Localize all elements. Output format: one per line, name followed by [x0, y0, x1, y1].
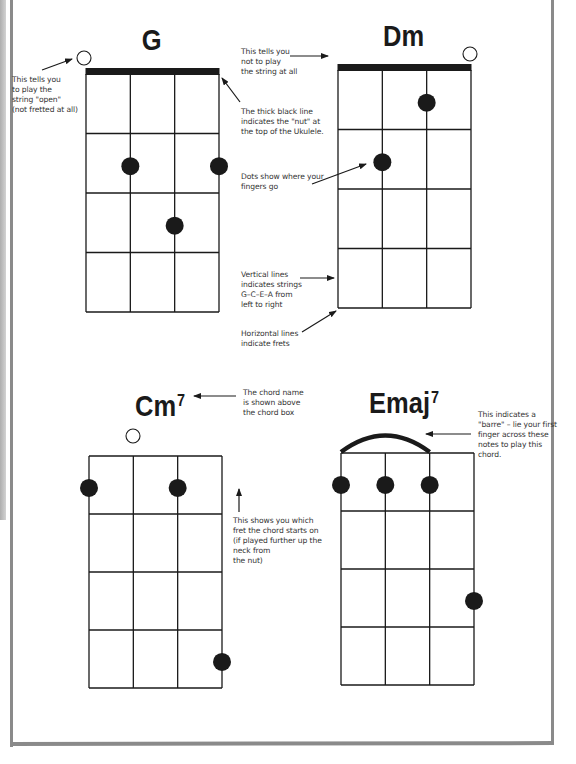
- note-start-fret: This shows you which fret the chord star…: [233, 516, 322, 566]
- chord-title-emaj7: Emaj7: [356, 383, 451, 418]
- chord-title-g: G: [127, 20, 178, 55]
- finger-dot: [373, 153, 391, 171]
- note-barre: This indicates a "barre" – lie your firs…: [478, 410, 557, 460]
- ukulele-chord-guide-page: G Dm Cm7 Emaj7 This tells you to play th…: [0, 0, 576, 764]
- chord-box-dm: [338, 47, 478, 308]
- finger-dot: [421, 476, 439, 494]
- chord-box-emaj7: [332, 436, 483, 686]
- open-string-marker: [77, 51, 91, 65]
- finger-dot: [376, 476, 394, 494]
- finger-dot: [169, 479, 187, 497]
- finger-dot: [213, 653, 231, 671]
- nut-bar: [86, 68, 220, 75]
- finger-dot: [332, 476, 350, 494]
- finger-dot: [465, 592, 483, 610]
- arrow-horizontal-lines-icon: [302, 311, 336, 332]
- note-chord-name: The chord name is shown above the chord …: [243, 388, 304, 418]
- note-dots: Dots show where your fingers go: [241, 172, 324, 192]
- note-vertical-lines: Vertical lines indicates strings G–C–E–A…: [241, 270, 302, 310]
- chord-box-g: [77, 51, 228, 312]
- open-string-marker: [463, 47, 477, 61]
- chord-box-cm7: [80, 429, 231, 688]
- arrow-nut-icon: [222, 78, 240, 102]
- finger-dot: [166, 217, 184, 235]
- finger-dot: [418, 94, 436, 112]
- finger-dot: [80, 479, 98, 497]
- note-horizontal-lines: Horizontal lines indicate frets: [241, 329, 298, 349]
- note-open-string: This tells you to play the string "open"…: [12, 75, 78, 115]
- finger-dot: [210, 157, 228, 175]
- finger-dot: [121, 157, 139, 175]
- chord-title-dm: Dm: [370, 16, 438, 51]
- nut-bar: [338, 64, 472, 71]
- arrow-open-string-icon: [42, 59, 72, 70]
- note-nut: The thick black line indicates the "nut"…: [241, 107, 324, 137]
- chord-title-cm7: Cm7: [124, 386, 195, 421]
- open-string-marker: [126, 429, 140, 443]
- barre-arc: [341, 436, 430, 453]
- note-not-play: This tells you not to play the string at…: [241, 47, 297, 77]
